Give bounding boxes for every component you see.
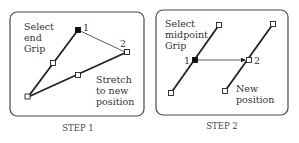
step1-grip-selected-end[interactable] [76,28,81,33]
step1-stretch-label-line1: Stretch [96,74,132,85]
step1-caption: STEP 1 [62,123,94,133]
step1-select-label-line3: Grip [24,43,45,54]
step1-stretch-label-line3: position [96,96,134,107]
step1-select-label-line2: end [24,32,42,43]
step2-caption: STEP 2 [206,121,238,131]
step2-grip-original-start[interactable] [169,91,174,96]
grip-stretch-diagram: Select end Grip 1 2 Stretch to new posit… [0,0,299,143]
step2-grip-selected-midpoint[interactable] [193,58,198,63]
step2-grip-new-end[interactable] [271,22,276,27]
step2-grip-new-start[interactable] [223,89,228,94]
step1-point-2-label: 2 [120,38,126,49]
step1-grip-midpoint-new[interactable] [76,73,81,78]
step2-grip-new-midpoint[interactable] [247,58,252,63]
step2-panel: Select midpoint Grip 1 2 New position ST… [156,10,288,131]
step1-stretch-label-line2: to new [96,85,128,96]
step2-grip-original-end[interactable] [217,23,222,28]
step1-point-1-label: 1 [83,22,89,33]
step2-new-label-line1: New [236,83,258,94]
step2-select-label-line1: Select [165,18,195,29]
step1-grip-new-end[interactable] [125,50,130,55]
step2-new-label-line2: position [236,94,274,105]
step1-select-label-line1: Select [24,21,54,32]
step2-select-label-line3: Grip [165,40,186,51]
step2-point-1-label: 1 [184,55,190,66]
step1-panel: Select end Grip 1 2 Stretch to new posit… [10,12,144,133]
step1-grip-start[interactable] [25,94,30,99]
step2-select-label-line2: midpoint [165,29,208,40]
step1-stretch-path [78,30,125,52]
step1-grip-midpoint-original[interactable] [51,61,56,66]
step2-point-2-label: 2 [254,55,260,66]
